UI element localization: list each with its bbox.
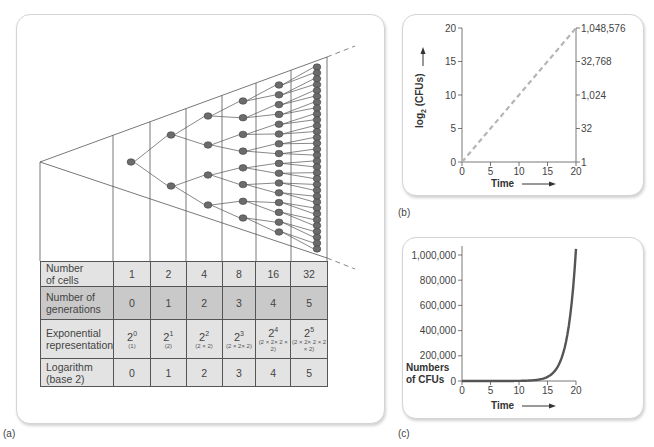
y-tick-label: 400,000 bbox=[420, 325, 457, 336]
series-line bbox=[462, 249, 576, 381]
caption-c: (c) bbox=[398, 428, 410, 439]
x-tick-label: 10 bbox=[513, 385, 525, 396]
y-tick-label: 1,000,000 bbox=[412, 250, 457, 261]
y-axis-label-line2: of CFUs bbox=[406, 374, 445, 385]
x-tick-label: 20 bbox=[570, 385, 582, 396]
x-tick-label: 5 bbox=[488, 385, 494, 396]
y-tick-label: 600,000 bbox=[420, 300, 457, 311]
x-arrow-head bbox=[549, 404, 556, 409]
x-tick-label: 15 bbox=[542, 385, 554, 396]
y-axis-label-line1: Numbers bbox=[406, 362, 450, 373]
y-tick-label: 0 bbox=[450, 376, 456, 387]
y-tick-label: 800,000 bbox=[420, 275, 457, 286]
x-axis-label: Time bbox=[491, 400, 515, 411]
x-tick-label: 0 bbox=[459, 385, 465, 396]
linear-chart: 0200,000400,000600,000800,0001,000,00005… bbox=[0, 0, 654, 447]
y-tick-label: 200,000 bbox=[420, 350, 457, 361]
